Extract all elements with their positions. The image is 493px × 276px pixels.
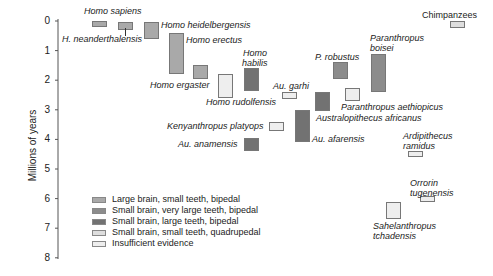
label-rudolfensis: Homo rudolfensis	[206, 97, 276, 107]
label-erectus: Homo erectus	[186, 35, 242, 45]
bar-homo-rudolfensis	[218, 74, 233, 98]
label-robustus: P. robustus	[315, 52, 359, 62]
bar-paranthropus-aethiopicus	[345, 88, 360, 101]
bar-australopithecus-africanus	[315, 92, 330, 111]
label-garhi: Au. garhi	[273, 81, 309, 91]
y-tick-label: 3	[36, 104, 50, 115]
legend-swatch	[92, 219, 106, 225]
legend: Large brain, small teeth, bipedal Small …	[92, 194, 261, 249]
label-habilis-2: habilis	[242, 58, 268, 68]
legend-item-large-teeth: Small brain, large teeth, bipedal	[92, 216, 261, 227]
y-tick-label: 5	[36, 163, 50, 174]
bar-kenyanthropus-platyops	[269, 122, 284, 131]
label-sahelanthropus-1: Sahelanthropus	[373, 221, 436, 231]
label-ergaster: Homo ergaster	[150, 80, 210, 90]
label-ramidus-2: ramidus	[403, 141, 435, 151]
bar-homo-habilis	[244, 68, 259, 90]
label-tugenensis-1: Orrorin	[410, 178, 438, 188]
label-ramidus-1: Ardipithecus	[403, 131, 453, 141]
label-chimpanzees: Chimpanzees	[422, 10, 477, 20]
legend-swatch	[92, 230, 106, 236]
label-afarensis: Au. afarensis	[312, 134, 365, 144]
label-boisei-2: boisei	[370, 43, 394, 53]
legend-item-insufficient: Insufficient evidence	[92, 238, 261, 249]
bar-au-anamensis	[244, 138, 259, 151]
legend-item-large-brain: Large brain, small teeth, bipedal	[92, 194, 261, 205]
bar-homo-sapiens	[92, 21, 107, 27]
bar-homo-ergaster	[193, 65, 208, 78]
label-platyops: Kenyanthropus platyops	[167, 121, 264, 131]
bar-sahelanthropus-tchadensis	[386, 202, 401, 220]
label-habilis-1: Homo	[243, 48, 267, 58]
label-anamensis: Au. anamensis	[178, 139, 238, 149]
legend-swatch	[92, 208, 106, 214]
label-boisei-1: Paranthropus	[370, 33, 424, 43]
label-heidelbergensis: Homo heidelbergensis	[161, 20, 251, 30]
bar-paranthropus-boisei	[371, 54, 386, 92]
hominin-timeline-chart: Millions of years 012345678 Homo sapiens…	[0, 0, 493, 276]
label-neanderthalensis: H. neanderthalensis	[62, 34, 142, 44]
y-tick-label: 7	[36, 222, 50, 233]
legend-item-quadrupedal: Small brain, small teeth, quadrupedal	[92, 227, 261, 238]
bar-homo-erectus	[169, 33, 184, 74]
y-tick-label: 4	[36, 133, 50, 144]
bar-p-robustus	[333, 62, 348, 78]
legend-item-very-large-teeth: Small brain, very large teeth, bipedal	[92, 205, 261, 216]
label-homo-sapiens: Homo sapiens	[84, 6, 142, 16]
bar-homo-heidelbergensis	[144, 22, 159, 38]
y-tick-label: 0	[36, 15, 50, 26]
label-africanus: Australopithecus africanus	[316, 113, 422, 123]
bar-au-garhi	[282, 92, 297, 99]
neanderthal-pointer	[125, 28, 126, 36]
y-tick-label: 1	[36, 45, 50, 56]
label-sahelanthropus-2: tchadensis	[373, 231, 416, 241]
y-tick-label: 6	[36, 193, 50, 204]
legend-swatch	[92, 241, 106, 247]
y-tick-label: 2	[36, 74, 50, 85]
bar-chimpanzees	[450, 21, 465, 28]
legend-swatch	[92, 197, 106, 203]
label-tugenensis-2: tugenensis	[410, 188, 454, 198]
bar-au-afarensis	[295, 110, 310, 143]
bar-ardipithecus-ramidus	[408, 151, 423, 157]
label-aethiopicus: Paranthropus aethiopicus	[341, 102, 443, 112]
y-tick-label: 8	[36, 252, 50, 263]
